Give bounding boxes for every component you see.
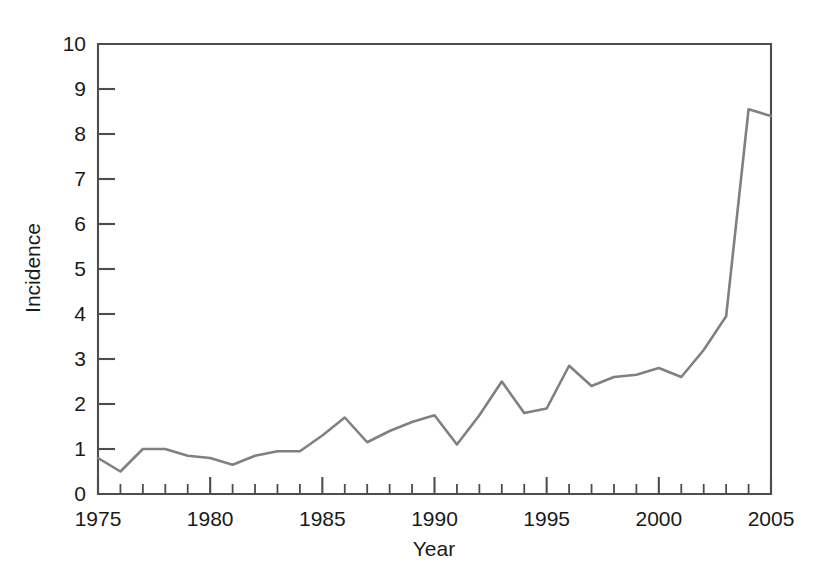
x-tick-label: 2000 <box>635 507 682 530</box>
y-tick-label: 8 <box>74 122 86 145</box>
chart-figure: 1975198019851990199520002005 01234567891… <box>0 0 818 575</box>
y-tick-label: 0 <box>74 482 86 505</box>
chart-tick-marks <box>98 89 771 494</box>
x-tick-label: 1995 <box>523 507 570 530</box>
x-axis-tick-labels: 1975198019851990199520002005 <box>75 507 795 530</box>
y-axis-title: Incidence <box>21 223 44 313</box>
y-tick-label: 4 <box>74 302 86 325</box>
y-axis-tick-labels: 012345678910 <box>63 32 87 505</box>
incidence-series-line <box>98 109 771 471</box>
y-tick-label: 1 <box>74 437 86 460</box>
y-tick-label: 9 <box>74 77 86 100</box>
x-tick-label: 1990 <box>411 507 458 530</box>
x-tick-label: 1980 <box>187 507 234 530</box>
line-chart: 1975198019851990199520002005 01234567891… <box>0 0 818 575</box>
y-tick-label: 6 <box>74 212 86 235</box>
x-axis-title: Year <box>413 537 455 560</box>
x-tick-label: 2005 <box>748 507 795 530</box>
y-tick-label: 5 <box>74 257 86 280</box>
y-tick-label: 2 <box>74 392 86 415</box>
y-tick-label: 10 <box>63 32 86 55</box>
y-tick-label: 3 <box>74 347 86 370</box>
y-tick-label: 7 <box>74 167 86 190</box>
chart-axes <box>98 44 771 494</box>
x-tick-label: 1975 <box>75 507 122 530</box>
x-tick-label: 1985 <box>299 507 346 530</box>
